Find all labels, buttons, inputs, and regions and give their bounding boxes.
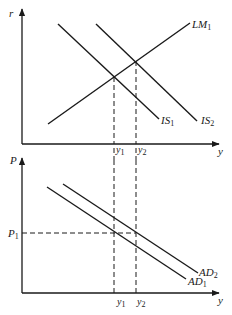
ad-panel: P y P1 AD2 AD1 y1 y2 bbox=[7, 154, 223, 309]
is1-label: IS1 bbox=[160, 114, 174, 128]
ad1-curve bbox=[47, 187, 186, 279]
is2-label: IS2 bbox=[200, 114, 214, 128]
y-axis-label-bottom: y bbox=[217, 294, 223, 306]
y2-label-top: y2 bbox=[137, 144, 146, 157]
lm1-curve bbox=[48, 23, 190, 124]
is-lm-ad-diagram: r y LM1 IS1 IS2 y1 y2 P y P1 AD2 AD1 y1 … bbox=[0, 0, 232, 315]
p-axis-label: P bbox=[9, 154, 17, 166]
r-axis-label: r bbox=[9, 7, 14, 19]
y2-label-bottom: y2 bbox=[136, 296, 145, 309]
y1-label-bottom: y1 bbox=[116, 296, 125, 309]
is1-curve bbox=[58, 24, 159, 119]
is-lm-panel: r y LM1 IS1 IS2 y1 y2 bbox=[9, 7, 223, 157]
y-axis-label-top: y bbox=[217, 145, 223, 157]
y1-label-top: y1 bbox=[115, 144, 124, 157]
ad2-curve bbox=[63, 184, 198, 273]
lm1-label: LM1 bbox=[191, 18, 211, 32]
p1-label: P1 bbox=[7, 227, 19, 241]
